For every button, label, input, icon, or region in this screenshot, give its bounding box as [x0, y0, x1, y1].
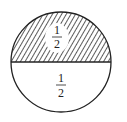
top-numerator: 1 [54, 23, 60, 37]
bottom-denominator: 2 [58, 86, 64, 100]
top-denominator: 2 [54, 37, 60, 51]
fraction-circle-diagram: 1 2 1 2 [0, 0, 127, 122]
bottom-fraction-label: 1 2 [56, 71, 66, 100]
bottom-numerator: 1 [58, 71, 64, 85]
